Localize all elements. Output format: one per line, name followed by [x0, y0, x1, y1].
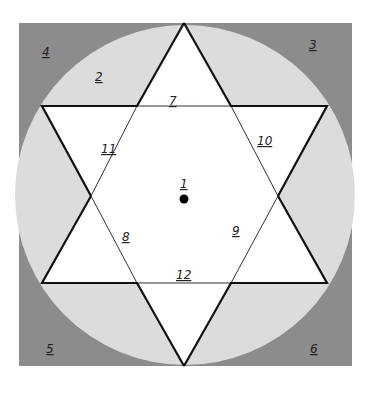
label-12: 12 — [176, 268, 191, 282]
label-3: 3 — [309, 38, 317, 52]
label-11: 11 — [101, 142, 116, 156]
center-dot — [180, 195, 189, 204]
label-2: 2 — [95, 70, 103, 84]
label-10: 10 — [257, 134, 273, 148]
label-7: 7 — [169, 94, 177, 108]
label-4: 4 — [42, 45, 50, 59]
label-5: 5 — [46, 342, 54, 356]
star-diagram: 1 2 3 4 5 6 7 8 9 10 11 12 — [0, 0, 370, 396]
label-9: 9 — [232, 224, 240, 238]
label-8: 8 — [122, 230, 130, 244]
label-6: 6 — [310, 342, 318, 356]
label-1: 1 — [180, 177, 188, 191]
